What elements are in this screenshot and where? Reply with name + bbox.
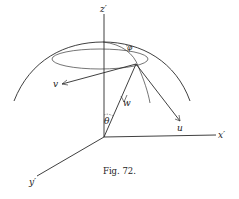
y-axis (37, 137, 104, 176)
w-vector (104, 64, 136, 137)
v-label: v (53, 79, 58, 89)
theta-label: θ (104, 116, 110, 126)
x-axis (104, 135, 216, 137)
latitude-circle (52, 49, 148, 69)
z-axis-label: z′ (99, 4, 107, 14)
y-axis-label: y′ (28, 177, 36, 187)
w-label: w (123, 98, 131, 108)
phi-label: φ (127, 43, 133, 52)
u-label: u (177, 123, 183, 133)
figure-caption: Fig. 72. (103, 166, 136, 176)
x-axis-label: x′ (218, 130, 225, 140)
sphere-arc (14, 42, 190, 101)
spherical-coordinates-figure: z′ x′ y′ u v w θ φ Fig. 72. (0, 0, 239, 199)
